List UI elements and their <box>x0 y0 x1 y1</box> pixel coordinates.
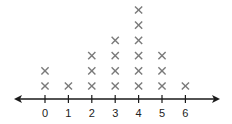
x-mark-2-2 <box>88 67 95 74</box>
x-mark-5-3 <box>158 52 165 59</box>
x-mark-2-1 <box>88 82 95 89</box>
x-mark-2-3 <box>88 52 95 59</box>
x-mark-6-1 <box>182 82 189 89</box>
line-plot: 0123456 <box>0 0 232 124</box>
tick-label-3: 3 <box>112 107 118 119</box>
x-mark-4-3 <box>135 52 142 59</box>
x-mark-5-1 <box>158 82 165 89</box>
x-mark-4-2 <box>135 67 142 74</box>
x-mark-3-3 <box>112 52 119 59</box>
x-mark-0-1 <box>41 82 48 89</box>
x-mark-5-2 <box>158 67 165 74</box>
x-mark-4-4 <box>135 37 142 44</box>
tick-label-6: 6 <box>182 107 188 119</box>
x-mark-3-2 <box>112 67 119 74</box>
x-mark-1-1 <box>65 82 72 89</box>
x-mark-4-5 <box>135 22 142 29</box>
x-mark-3-4 <box>112 37 119 44</box>
x-mark-4-1 <box>135 82 142 89</box>
tick-label-4: 4 <box>136 107 142 119</box>
x-mark-4-6 <box>135 6 142 13</box>
x-mark-0-2 <box>41 67 48 74</box>
tick-label-5: 5 <box>159 107 165 119</box>
tick-label-2: 2 <box>89 107 95 119</box>
x-mark-3-1 <box>112 82 119 89</box>
tick-label-1: 1 <box>65 107 71 119</box>
tick-label-0: 0 <box>42 107 48 119</box>
